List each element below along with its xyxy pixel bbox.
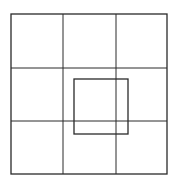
horizontal-grid-lines — [11, 68, 167, 121]
outer-square — [11, 14, 167, 174]
vertical-grid-lines — [63, 14, 116, 174]
inner-square — [74, 79, 128, 134]
grid-diagram — [0, 0, 179, 184]
